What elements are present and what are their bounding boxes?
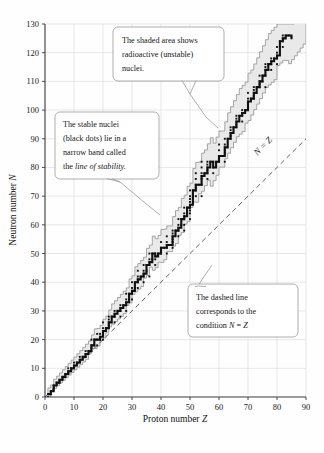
stable-nucleus-dot: [166, 241, 168, 243]
stable-nucleus-dot: [163, 247, 165, 249]
stable-nuclei-callout-line1: The stable nuclei: [63, 120, 120, 129]
stable-nucleus-dot: [131, 287, 133, 289]
stable-nucleus-dot: [137, 287, 139, 289]
stable-nucleus-dot: [73, 364, 75, 366]
stable-nucleus-dot: [59, 379, 61, 381]
stable-nucleus-dot: [128, 293, 130, 295]
stable-nucleus-dot: [137, 281, 139, 283]
stable-nucleus-dot: [204, 172, 206, 174]
stable-nucleus-dot: [140, 276, 142, 278]
stable-nucleus-dot: [201, 167, 203, 169]
stable-nucleus-dot: [125, 293, 127, 295]
stable-nucleus-dot: [53, 387, 55, 389]
stable-nucleus-dot: [238, 115, 240, 117]
stable-nucleus-dot: [183, 224, 185, 226]
stable-nucleus-dot: [119, 304, 121, 306]
stable-nuclei-callout-line4: the line of stability.: [63, 162, 126, 171]
stable-nucleus-dot: [198, 184, 200, 186]
stable-nucleus-dot: [119, 307, 121, 309]
stable-nucleus-dot: [253, 98, 255, 100]
y-tick-label: 100: [26, 105, 39, 115]
stable-nucleus-dot: [241, 115, 243, 117]
stable-nucleus-dot: [79, 356, 81, 358]
stable-nucleus-dot: [201, 195, 203, 197]
stable-nucleus-dot: [270, 69, 272, 71]
stable-nucleus-dot: [201, 172, 203, 174]
stable-nucleus-dot: [256, 86, 258, 88]
stable-nucleus-dot: [250, 98, 252, 100]
stable-nucleus-dot: [96, 344, 98, 346]
x-tick-label: 10: [70, 402, 79, 412]
stable-nucleus-dot: [206, 167, 208, 169]
stable-nucleus-dot: [99, 333, 101, 335]
stable-nucleus-dot: [177, 227, 179, 229]
stable-nucleus-dot: [186, 212, 188, 214]
stable-nucleus-dot: [160, 253, 162, 255]
stable-nucleus-dot: [61, 376, 63, 378]
stable-nucleus-dot: [117, 310, 119, 312]
stable-nucleus-dot: [189, 201, 191, 203]
stable-nucleus-dot: [270, 60, 272, 62]
stable-nucleus-dot: [67, 370, 69, 372]
stable-nucleus-dot: [253, 89, 255, 91]
stable-nucleus-dot: [212, 167, 214, 169]
stable-nucleus-dot: [230, 135, 232, 137]
svg-text:N = Z: N = Z: [251, 134, 275, 158]
stable-nuclei-callout-line2: (black dots) lie in a: [63, 134, 127, 143]
stable-nucleus-dot: [59, 382, 61, 384]
stable-nucleus-dot: [148, 258, 150, 260]
stable-nucleus-dot: [192, 195, 194, 197]
stable-nucleus-dot: [206, 164, 208, 166]
stable-nucleus-dot: [235, 123, 237, 125]
stable-nucleus-dot: [218, 155, 220, 157]
stable-nucleus-dot: [186, 207, 188, 209]
stable-nucleus-dot: [143, 264, 145, 266]
stable-nucleus-dot: [172, 238, 174, 240]
stable-nucleus-dot: [143, 273, 145, 275]
svg-text:Neutron number N: Neutron number N: [8, 174, 18, 246]
y-tick-label: 50: [31, 249, 40, 259]
stable-nucleus-dot: [137, 270, 139, 272]
stable-nucleus-dot: [253, 95, 255, 97]
y-tick-label: 40: [31, 277, 40, 287]
stable-nucleus-dot: [61, 379, 63, 381]
dashed-line-callout-tail: [198, 265, 212, 286]
stable-nucleus-dot: [111, 316, 113, 318]
stable-nucleus-dot: [108, 316, 110, 318]
stable-nucleus-dot: [195, 172, 197, 174]
stable-nucleus-dot: [195, 178, 197, 180]
stable-nucleus-dot: [177, 218, 179, 220]
stable-nucleus-dot: [148, 253, 150, 255]
stable-nucleus-dot: [180, 218, 182, 220]
stable-nucleus-dot: [183, 218, 185, 220]
stable-nucleus-dot: [206, 172, 208, 174]
stable-nucleus-dot: [264, 69, 266, 71]
stable-nucleus-dot: [67, 373, 69, 375]
stable-nucleus-dot: [76, 362, 78, 364]
stable-nucleus-dot: [282, 35, 284, 37]
stable-nucleus-dot: [166, 244, 168, 246]
stable-nucleus-dot: [154, 255, 156, 257]
stable-nuclei-callout-line4-prefix: the: [63, 162, 75, 171]
y-tick-label: 20: [31, 335, 40, 345]
stable-nucleus-dot: [253, 92, 255, 94]
stable-nucleus-dot: [276, 55, 278, 57]
stable-nucleus-dot: [96, 333, 98, 335]
y-tick-label: 130: [26, 19, 39, 29]
stable-nucleus-dot: [53, 385, 55, 387]
stable-nucleus-dot: [47, 393, 49, 395]
stable-nucleus-dot: [134, 287, 136, 289]
stable-nucleus-dot: [102, 330, 104, 332]
stable-nucleus-dot: [90, 347, 92, 349]
stable-nucleus-dot: [88, 350, 90, 352]
stable-nucleus-dot: [279, 46, 281, 48]
y-tick-label: 80: [31, 162, 40, 172]
y-axis-title-symbol: N: [8, 174, 18, 182]
stable-nucleus-dot: [172, 233, 174, 235]
stable-nucleus-dot: [102, 327, 104, 329]
stable-nucleus-dot: [212, 172, 214, 174]
nuclide-chart: 0102030405060708090010203040506070809010…: [0, 0, 324, 453]
stable-nucleus-dot: [67, 367, 69, 369]
stable-nucleus-dot: [264, 86, 266, 88]
stable-nucleus-dot: [224, 144, 226, 146]
